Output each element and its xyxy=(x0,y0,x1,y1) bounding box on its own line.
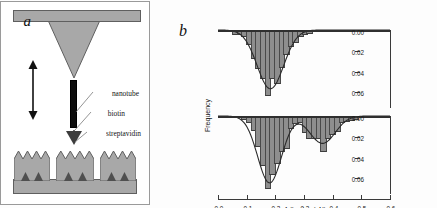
histogram-bottom-fit-curve xyxy=(218,30,390,108)
y-tick-label: 0.02 xyxy=(352,135,364,142)
x-tick xyxy=(390,195,391,200)
x-tick-label: 0.5 xyxy=(358,205,367,208)
plot-stack: 0.00 0.02 0.04 0.06 0.00 0.0 xyxy=(219,24,391,194)
y-tick-label: 0.02 xyxy=(352,49,364,56)
leader-lines xyxy=(1,2,149,204)
x-tick xyxy=(247,195,248,200)
x-tick-label: 0.6 xyxy=(387,205,396,208)
label-streptavidin: streptavidin xyxy=(106,129,141,138)
x-tick-label: 0.0 xyxy=(215,205,224,208)
panel-a-schematic: streptavidin biotin nanotube a xyxy=(0,1,150,205)
label-biotin: biotin xyxy=(108,109,125,118)
y-tick-label: 0.00 xyxy=(352,115,364,122)
panel-b-histograms: Adhesion (nN) 0.6 0.5 0.4 0.3 0.2 0.1 0.… xyxy=(155,0,437,208)
label-nanotube: nanotube xyxy=(112,89,139,98)
y-tick-label: 0.06 xyxy=(352,89,364,96)
histogram-bottom-baseline xyxy=(218,30,390,32)
histogram-top-fit-curve xyxy=(218,116,390,194)
x-axis-line xyxy=(219,199,391,200)
figure-root: Adhesion (nN) 0.6 0.5 0.4 0.3 0.2 0.1 0.… xyxy=(0,0,437,208)
x-tick-label: 0.4 xyxy=(329,205,338,208)
x-tick xyxy=(275,195,276,200)
x-tick-label: 0.2 xyxy=(272,205,281,208)
y-tick-label: 0.04 xyxy=(352,155,364,162)
x-tick-label: 0.3 xyxy=(301,205,310,208)
y-tick-label: 0.06 xyxy=(352,175,364,182)
y-tick-label: 0.04 xyxy=(352,69,364,76)
panel-b-label: b xyxy=(179,22,187,40)
x-tick xyxy=(361,195,362,200)
histogram-top-baseline xyxy=(218,116,390,118)
histogram-bottom: 0.00 0.02 0.04 0.06 xyxy=(218,30,391,108)
x-tick xyxy=(304,195,305,200)
x-tick xyxy=(333,195,334,200)
y-axis-title: Frequency xyxy=(204,99,211,132)
y-tick-label: 0.00 xyxy=(352,29,364,36)
panel-a-label: a xyxy=(24,13,32,30)
x-tick xyxy=(218,195,219,200)
x-tick-label: 0.1 xyxy=(243,205,252,208)
x-axis: 0.6 0.5 0.4 0.3 0.2 0.1 0.0 xyxy=(219,199,391,200)
histogram-top: 0.00 0.02 0.04 0.06 xyxy=(218,116,391,194)
